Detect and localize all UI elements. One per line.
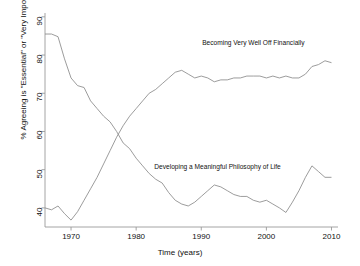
x-tick-label-2010: 2010 [317,232,345,241]
series-line-0 [45,34,331,212]
x-tick-label-2000: 2000 [252,232,280,241]
x-tick-label-1980: 1980 [122,232,150,241]
y-tick-label-60: 60 [35,131,44,159]
x-axis-title: Time (years) [0,248,360,257]
plot-area [0,0,360,266]
y-tick-label-70: 70 [35,93,44,121]
y-tick-label-90: 90 [35,16,44,44]
y-tick-label-80: 80 [35,55,44,83]
data-series [45,34,331,220]
x-tick-label-1990: 1990 [187,232,215,241]
x-tick-label-1970: 1970 [57,232,85,241]
y-axis-title: % Agreeing is "Essential" or "Very Impor… [19,0,28,140]
chart-container: % Agreeing is "Essential" or "Very Impor… [0,0,360,266]
axes [42,13,339,231]
y-tick-label-50: 50 [35,169,44,197]
series-line-1 [45,61,331,220]
series-annotation-0: Developing a Meaningful Philosophy of Li… [154,163,280,170]
y-tick-label-40: 40 [35,207,44,235]
series-annotation-1: Becoming Very Well Off Financially [202,39,304,46]
